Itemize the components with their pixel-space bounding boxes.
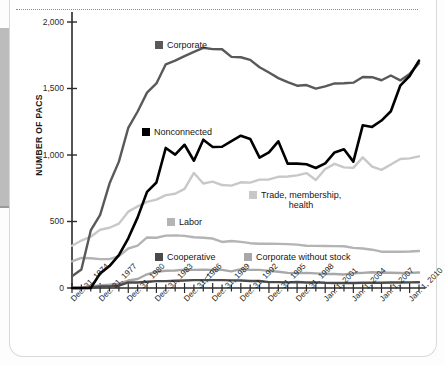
series-label-nonconnected: Nonconnected <box>142 127 212 137</box>
series-label-corporate-without-stock: Corporate without stock <box>244 252 351 262</box>
left-edge-bar-divider <box>0 206 9 208</box>
series-label-text: Labor <box>179 217 202 227</box>
series-label-text: Nonconnected <box>154 127 212 137</box>
y-tick-1000: 1,000 <box>20 150 64 160</box>
legend-swatch-icon <box>155 41 163 49</box>
legend-swatch-icon <box>167 218 175 226</box>
y-tick-500: 500 <box>20 216 64 226</box>
series-label-trade-membership-health: Trade, membership,health <box>249 190 341 211</box>
chart-figure: NUMBER OF PACS 05001,0001,5002,000 Dec. … <box>9 0 437 357</box>
screenshot-root: NUMBER OF PACS 05001,0001,5002,000 Dec. … <box>0 0 445 365</box>
series-label-text: Trade, membership, <box>261 190 341 200</box>
series-label-labor: Labor <box>167 217 202 227</box>
y-tick-2000: 2,000 <box>20 17 64 27</box>
series-label-text: Corporate without stock <box>256 252 351 262</box>
legend-swatch-icon <box>244 253 252 261</box>
series-label-text: Cooperative <box>167 252 216 262</box>
legend-swatch-icon <box>249 191 257 199</box>
legend-swatch-icon <box>155 253 163 261</box>
left-edge-bar <box>0 28 9 206</box>
series-label-corporate: Corporate <box>155 40 207 50</box>
y-tick-0: 0 <box>20 283 64 293</box>
series-label-text: Corporate <box>167 40 207 50</box>
legend-swatch-icon <box>142 128 150 136</box>
series-label-text-line2: health <box>249 200 341 210</box>
series-line-trade-membership-health <box>72 156 419 245</box>
series-label-cooperative: Cooperative <box>155 252 216 262</box>
y-tick-1500: 1,500 <box>20 83 64 93</box>
line-chart-canvas <box>9 0 437 357</box>
